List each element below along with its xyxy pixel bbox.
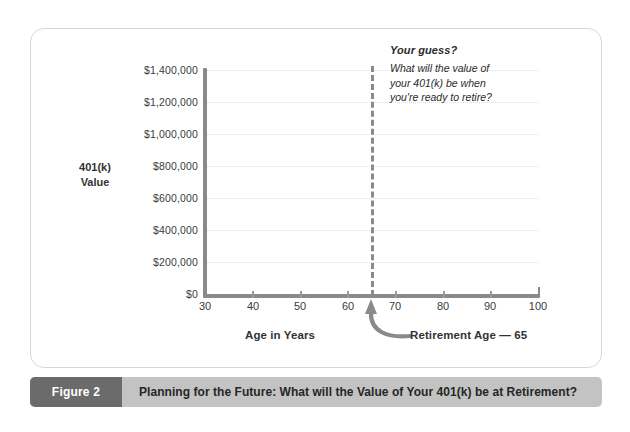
annotation-heading: Your guess? [390,44,540,56]
retirement-age-vline [371,66,374,296]
y-axis-title-line2: Value [56,175,134,190]
x-axis-tick [300,291,302,298]
x-axis-tick-label: 80 [423,300,463,312]
x-axis-tick [443,291,445,298]
chart-plot-area: $1,400,000 $1,200,000 $1,000,000 $800,00… [0,0,630,432]
x-axis-tick-label: 50 [280,300,320,312]
x-axis-title: Age in Years [215,329,345,341]
y-axis-tick-label: $1,000,000 [118,128,198,140]
x-axis-tick-label: 90 [470,300,510,312]
y-axis-tick-label: $1,400,000 [118,64,198,76]
y-axis-title-line1: 401(k) [56,160,134,175]
figure-container: $1,400,000 $1,200,000 $1,000,000 $800,00… [0,0,630,432]
annotation-line-2: your 401(k) be when [390,76,540,91]
x-axis-end-cap [538,287,540,295]
x-axis-tick-label: 30 [185,300,225,312]
y-axis-tick-label: $200,000 [118,256,198,268]
retirement-age-label: Retirement Age — 65 [410,329,527,341]
x-axis-tick-label: 100 [518,300,558,312]
x-axis-tick [252,291,254,298]
figure-caption-bar: Figure 2 Planning for the Future: What w… [30,377,602,407]
your-guess-annotation: Your guess? What will the value of your … [390,44,540,105]
y-axis-line [203,68,207,297]
y-axis-title: 401(k) Value [56,160,134,190]
y-axis-tick-label: $1,200,000 [118,96,198,108]
figure-caption-text: Planning for the Future: What will the V… [122,377,602,407]
x-axis-tick [490,291,492,298]
figure-number-badge: Figure 2 [30,377,122,407]
y-axis-tick-label: $600,000 [118,192,198,204]
annotation-line-1: What will the value of [390,61,540,76]
y-axis-tick-label: $0 [118,288,198,300]
y-axis-tick-label: $400,000 [118,224,198,236]
annotation-line-3: you're ready to retire? [390,90,540,105]
x-axis-tick-label: 40 [233,300,273,312]
curved-arrow-icon [340,296,420,342]
